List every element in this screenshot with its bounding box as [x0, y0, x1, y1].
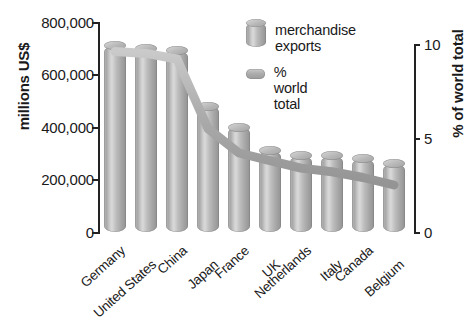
- bar-cap-france: [228, 123, 250, 132]
- line-swatch-icon: [246, 69, 265, 79]
- y-axis-right-tickmark-10: [414, 44, 420, 46]
- bar-united-states: [135, 48, 157, 232]
- bar-cap-united-states: [135, 44, 157, 53]
- y-axis-left-tickmark-0: [92, 232, 98, 234]
- legend-item-percent-world-total: % world total: [246, 64, 321, 112]
- bar-germany: [104, 46, 126, 232]
- bar-france: [228, 127, 250, 232]
- bar-cap-canada: [352, 154, 374, 163]
- y-axis-left-tick-800000: 800,000: [41, 14, 94, 31]
- y-axis-left-tickmark-400000: [92, 127, 98, 129]
- y-axis-right-tickmark-5: [414, 138, 420, 140]
- y-axis-right-tick-0: 0: [424, 224, 432, 241]
- bar-uk: [259, 151, 281, 232]
- bar-belgium: [383, 164, 405, 232]
- bar-japan: [197, 106, 219, 232]
- y-axis-right-title: % of world total: [449, 9, 466, 159]
- y-axis-right-tick-10: 10: [424, 36, 441, 53]
- y-axis-left-tick-600000: 600,000: [41, 66, 94, 83]
- bar-italy: [321, 156, 343, 232]
- y-axis-left-tickmark-200000: [92, 179, 98, 181]
- y-axis-left-tick-200000: 200,000: [41, 171, 94, 188]
- bar-china: [166, 51, 188, 232]
- legend-item-merchandise-exports: merchandise exports: [246, 22, 356, 54]
- y-axis-right-tickmark-0: [414, 232, 420, 234]
- y-axis-left-line: [98, 22, 100, 234]
- cylinder-icon: [246, 23, 266, 47]
- legend-label-merchandise-exports: merchandise exports: [275, 22, 356, 54]
- y-axis-left-tickmark-600000: [92, 74, 98, 76]
- y-axis-left-tickmark-800000: [92, 22, 98, 24]
- bar-canada: [352, 159, 374, 233]
- y-axis-left-title: millions US$: [15, 27, 32, 147]
- legend-label-percent-world-total: % world total: [274, 64, 321, 112]
- y-axis-right-tick-5: 5: [424, 130, 432, 147]
- bar-netherlands: [290, 156, 312, 232]
- bar-cap-japan: [197, 102, 219, 111]
- y-axis-left-tick-400000: 400,000: [41, 119, 94, 136]
